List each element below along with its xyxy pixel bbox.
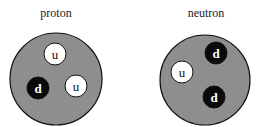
quark-label: d xyxy=(34,81,42,96)
quark-up: u xyxy=(65,75,87,97)
proton-group: proton u d u xyxy=(10,6,102,125)
quark-up: u xyxy=(171,61,193,83)
quark-label: u xyxy=(52,47,59,62)
quark-label: d xyxy=(210,90,218,105)
quark-label: d xyxy=(212,46,220,61)
quark-label: u xyxy=(179,65,186,80)
quark-composition-diagram: proton u d u neutron d u d xyxy=(0,0,263,127)
quark-down: d xyxy=(205,42,227,64)
quark-down: d xyxy=(27,77,49,99)
neutron-circle xyxy=(160,35,250,125)
neutron-group: neutron d u d xyxy=(160,6,250,125)
quark-down: d xyxy=(203,86,225,108)
proton-label: proton xyxy=(40,6,71,20)
quark-up: u xyxy=(44,43,66,65)
quark-label: u xyxy=(73,79,80,94)
neutron-label: neutron xyxy=(188,6,225,20)
